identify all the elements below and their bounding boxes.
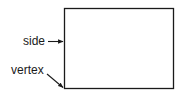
rectangle-diagram: side vertex xyxy=(0,0,184,98)
vertex-arrow xyxy=(47,74,63,88)
rectangle-shape xyxy=(65,9,174,89)
vertex-label: vertex xyxy=(11,63,44,77)
side-label: side xyxy=(23,34,45,48)
